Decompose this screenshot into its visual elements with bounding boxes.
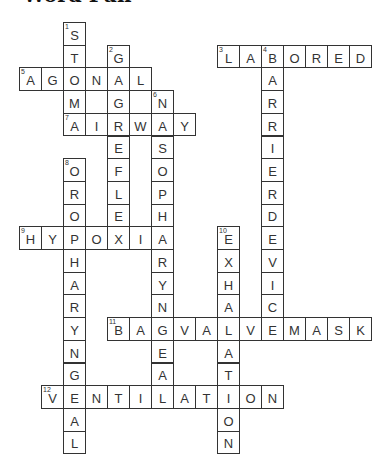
- grid-cell[interactable]: R: [63, 181, 86, 205]
- grid-cell[interactable]: A: [217, 294, 240, 318]
- grid-cell[interactable]: I: [85, 113, 108, 137]
- grid-cell[interactable]: A: [151, 226, 174, 250]
- grid-cell[interactable]: V: [261, 249, 284, 273]
- grid-cell[interactable]: 9H: [19, 226, 42, 250]
- grid-cell[interactable]: Y: [41, 226, 64, 250]
- grid-cell[interactable]: A: [305, 317, 328, 341]
- grid-cell[interactable]: D: [261, 204, 284, 228]
- grid-cell[interactable]: R: [63, 294, 86, 318]
- grid-cell[interactable]: E: [107, 204, 130, 228]
- grid-cell[interactable]: P: [63, 226, 86, 250]
- grid-cell[interactable]: A: [173, 385, 196, 409]
- grid-cell[interactable]: L: [217, 317, 240, 341]
- grid-cell[interactable]: A: [195, 317, 218, 341]
- grid-cell[interactable]: L: [63, 431, 86, 455]
- grid-cell[interactable]: A: [151, 113, 174, 137]
- grid-cell[interactable]: P: [151, 181, 174, 205]
- grid-cell[interactable]: 4B: [261, 45, 284, 69]
- grid-cell[interactable]: G: [151, 317, 174, 341]
- grid-cell[interactable]: X: [107, 226, 130, 250]
- grid-cell[interactable]: L: [107, 181, 130, 205]
- grid-cell[interactable]: E: [327, 45, 350, 69]
- grid-cell[interactable]: L: [151, 385, 174, 409]
- grid-cell[interactable]: 10E: [217, 226, 240, 250]
- grid-cell[interactable]: O: [239, 385, 262, 409]
- grid-cell[interactable]: 1S: [63, 22, 86, 46]
- grid-cell[interactable]: I: [129, 385, 152, 409]
- cell-letter: O: [157, 164, 167, 179]
- grid-cell[interactable]: 11B: [107, 317, 130, 341]
- grid-cell[interactable]: N: [151, 294, 174, 318]
- grid-cell[interactable]: 3L: [217, 45, 240, 69]
- grid-cell[interactable]: N: [85, 67, 108, 91]
- grid-cell[interactable]: M: [283, 317, 306, 341]
- grid-cell[interactable]: V: [173, 317, 196, 341]
- grid-cell[interactable]: T: [217, 363, 240, 387]
- grid-cell[interactable]: E: [107, 136, 130, 160]
- grid-cell[interactable]: O: [151, 158, 174, 182]
- grid-cell[interactable]: Y: [63, 317, 86, 341]
- grid-cell[interactable]: I: [217, 385, 240, 409]
- grid-cell[interactable]: N: [85, 385, 108, 409]
- grid-cell[interactable]: R: [305, 45, 328, 69]
- grid-cell[interactable]: W: [129, 113, 152, 137]
- grid-cell[interactable]: S: [327, 317, 350, 341]
- grid-cell[interactable]: A: [239, 45, 262, 69]
- grid-cell[interactable]: K: [349, 317, 372, 341]
- grid-cell[interactable]: A: [129, 317, 152, 341]
- grid-cell[interactable]: O: [85, 226, 108, 250]
- grid-cell[interactable]: F: [107, 158, 130, 182]
- grid-cell[interactable]: 8O: [63, 158, 86, 182]
- grid-cell[interactable]: E: [63, 385, 86, 409]
- grid-cell[interactable]: R: [151, 249, 174, 273]
- grid-cell[interactable]: S: [151, 136, 174, 160]
- grid-cell[interactable]: M: [63, 90, 86, 114]
- grid-cell[interactable]: O: [217, 408, 240, 432]
- grid-cell[interactable]: H: [151, 204, 174, 228]
- grid-cell[interactable]: T: [63, 45, 86, 69]
- grid-cell[interactable]: O: [63, 204, 86, 228]
- grid-cell[interactable]: L: [129, 67, 152, 91]
- grid-cell[interactable]: E: [261, 158, 284, 182]
- grid-cell[interactable]: A: [151, 363, 174, 387]
- grid-cell[interactable]: A: [217, 340, 240, 364]
- grid-cell[interactable]: R: [261, 113, 284, 137]
- grid-cell[interactable]: I: [261, 272, 284, 296]
- grid-cell[interactable]: V: [239, 317, 262, 341]
- grid-cell[interactable]: 6N: [151, 90, 174, 114]
- grid-cell[interactable]: I: [261, 136, 284, 160]
- grid-cell[interactable]: T: [195, 385, 218, 409]
- grid-cell[interactable]: I: [129, 226, 152, 250]
- grid-cell[interactable]: T: [107, 385, 130, 409]
- grid-cell[interactable]: E: [261, 317, 284, 341]
- grid-cell[interactable]: 7A: [63, 113, 86, 137]
- grid-cell[interactable]: E: [261, 226, 284, 250]
- grid-cell[interactable]: H: [217, 272, 240, 296]
- grid-cell[interactable]: X: [217, 249, 240, 273]
- grid-cell[interactable]: R: [107, 113, 130, 137]
- grid-cell[interactable]: H: [63, 249, 86, 273]
- grid-cell[interactable]: N: [261, 385, 284, 409]
- grid-cell[interactable]: 5A: [19, 67, 42, 91]
- grid-cell[interactable]: Y: [173, 113, 196, 137]
- cell-letter: R: [268, 187, 277, 202]
- grid-cell[interactable]: G: [41, 67, 64, 91]
- grid-cell[interactable]: A: [261, 67, 284, 91]
- grid-cell[interactable]: N: [63, 340, 86, 364]
- grid-cell[interactable]: A: [63, 408, 86, 432]
- grid-cell[interactable]: O: [283, 45, 306, 69]
- grid-cell[interactable]: 2G: [107, 45, 130, 69]
- grid-cell[interactable]: D: [349, 45, 372, 69]
- grid-cell[interactable]: N: [217, 431, 240, 455]
- grid-cell[interactable]: R: [261, 90, 284, 114]
- grid-cell[interactable]: C: [261, 294, 284, 318]
- grid-cell[interactable]: O: [63, 67, 86, 91]
- grid-cell[interactable]: A: [63, 272, 86, 296]
- grid-cell[interactable]: G: [107, 90, 130, 114]
- grid-cell[interactable]: A: [107, 67, 130, 91]
- grid-cell[interactable]: G: [63, 363, 86, 387]
- grid-cell[interactable]: 12V: [41, 385, 64, 409]
- grid-cell[interactable]: Y: [151, 272, 174, 296]
- grid-cell[interactable]: E: [151, 340, 174, 364]
- grid-cell[interactable]: R: [261, 181, 284, 205]
